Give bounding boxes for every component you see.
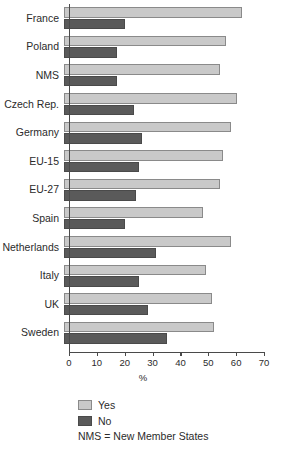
bar-yes [64, 293, 212, 304]
category-label: Italy [0, 270, 64, 281]
bar-row: Czech Rep. [0, 90, 286, 119]
bar-row: Netherlands [0, 233, 286, 262]
category-label: NMS [0, 70, 64, 81]
bar-no [64, 248, 156, 259]
bar-row: France [0, 4, 286, 33]
legend-item: No [78, 414, 115, 428]
bar-yes [64, 236, 231, 247]
bar-group [64, 62, 279, 88]
x-tick-label: 20 [119, 358, 130, 368]
x-axis-line [69, 352, 264, 353]
bar-yes [64, 93, 237, 104]
category-label: Poland [0, 41, 64, 52]
x-tick [153, 352, 154, 356]
x-tick-label: 40 [175, 358, 186, 368]
category-label: Germany [0, 127, 64, 138]
bar-no [64, 133, 142, 144]
legend-label: Yes [98, 400, 115, 411]
category-label: France [0, 13, 64, 24]
y-axis-line [69, 4, 70, 352]
category-label: UK [0, 299, 64, 310]
bar-group [64, 263, 279, 289]
x-tick [236, 352, 237, 356]
bar-yes [64, 179, 220, 190]
bar-yes [64, 265, 206, 276]
x-tick-label: 0 [66, 358, 71, 368]
bar-yes [64, 207, 203, 218]
x-tick [264, 352, 265, 356]
bar-row: Poland [0, 33, 286, 62]
x-tick-label: 70 [259, 358, 270, 368]
category-label: Sweden [0, 327, 64, 338]
bar-no [64, 162, 139, 173]
bar-row: Italy [0, 261, 286, 290]
bar-row: Sweden [0, 319, 286, 348]
bar-yes [64, 322, 214, 333]
bar-row: UK [0, 290, 286, 319]
bar-group [64, 148, 279, 174]
category-label: EU-15 [0, 156, 64, 167]
chart-legend: YesNo [78, 398, 115, 430]
category-label: Czech Rep. [0, 99, 64, 110]
bar-group [64, 120, 279, 146]
bar-rows: FrancePolandNMSCzech Rep.GermanyEU-15EU-… [0, 4, 286, 347]
bar-group [64, 177, 279, 203]
bar-group [64, 91, 279, 117]
bar-no [64, 76, 117, 87]
legend-swatch-no [78, 416, 92, 426]
bar-row: NMS [0, 61, 286, 90]
x-tick-label: 60 [231, 358, 242, 368]
bar-yes [64, 122, 231, 133]
chart-footnote: NMS = New Member States [78, 430, 208, 442]
bar-row: Germany [0, 118, 286, 147]
legend-swatch-yes [78, 400, 92, 410]
bar-row: EU-15 [0, 147, 286, 176]
x-axis-title: % [0, 372, 286, 383]
category-label: Spain [0, 213, 64, 224]
bar-row: Spain [0, 204, 286, 233]
x-tick-label: 50 [203, 358, 214, 368]
legend-label: No [98, 416, 111, 427]
bar-no [64, 190, 136, 201]
bar-group [64, 234, 279, 260]
bar-group [64, 291, 279, 317]
bar-no [64, 47, 117, 58]
legend-item: Yes [78, 398, 115, 412]
bar-chart: FrancePolandNMSCzech Rep.GermanyEU-15EU-… [0, 0, 286, 450]
bar-row: EU-27 [0, 176, 286, 205]
bar-group [64, 320, 279, 346]
category-label: Netherlands [0, 242, 64, 253]
x-tick [180, 352, 181, 356]
bar-group [64, 34, 279, 60]
bar-no [64, 19, 125, 30]
category-label: EU-27 [0, 184, 64, 195]
x-tick [208, 352, 209, 356]
plot-area: FrancePolandNMSCzech Rep.GermanyEU-15EU-… [0, 0, 286, 368]
x-tick [69, 352, 70, 356]
x-tick [97, 352, 98, 356]
bar-no [64, 333, 167, 344]
x-tick-label: 30 [147, 358, 158, 368]
bar-no [64, 105, 134, 116]
bar-no [64, 276, 139, 287]
bar-yes [64, 36, 226, 47]
bar-group [64, 5, 279, 31]
bar-no [64, 219, 125, 230]
x-tick [125, 352, 126, 356]
bar-no [64, 305, 148, 316]
bar-group [64, 205, 279, 231]
x-tick-label: 10 [92, 358, 103, 368]
bar-yes [64, 64, 220, 75]
bar-yes [64, 150, 223, 161]
bar-yes [64, 7, 242, 18]
